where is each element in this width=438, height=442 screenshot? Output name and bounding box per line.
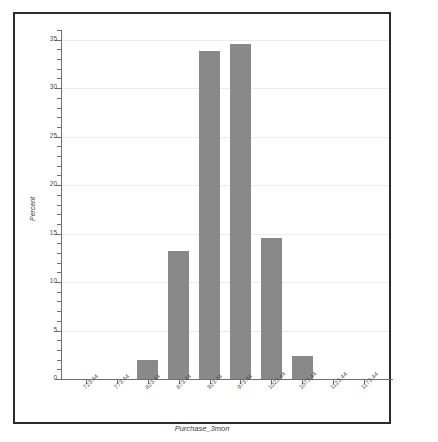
- histogram-bar: [168, 251, 189, 379]
- plot-frame: 05101520253035 Percent 723.44773.44823.4…: [13, 12, 391, 424]
- histogram-figure: 05101520253035 Percent 723.44773.44823.4…: [0, 0, 438, 442]
- bar-series: [15, 14, 393, 381]
- histogram-bar: [261, 238, 282, 379]
- x-axis-title: Purchase_3mon: [15, 424, 389, 433]
- histogram-bar: [230, 44, 251, 379]
- histogram-bar: [199, 51, 220, 379]
